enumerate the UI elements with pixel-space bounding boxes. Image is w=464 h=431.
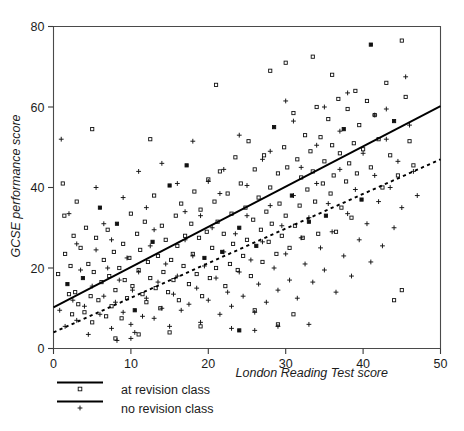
marker-open-square: [234, 156, 237, 159]
marker-open-square: [97, 299, 100, 302]
marker-open-square: [400, 289, 403, 292]
marker-open-square: [106, 228, 109, 231]
marker-open-square: [259, 228, 262, 231]
marker-plus: [159, 161, 164, 166]
marker-open-square: [153, 194, 156, 197]
marker-plus: [225, 290, 230, 295]
x-axis-title: London Reading Test score: [236, 366, 388, 380]
marker-plus: [59, 137, 64, 142]
y-tick-label-80: 80: [31, 20, 45, 34]
marker-open-square: [354, 89, 357, 92]
marker-open-square: [149, 276, 152, 279]
marker-open-square: [226, 192, 229, 195]
marker-plus: [287, 278, 292, 283]
marker-open-square: [185, 164, 188, 167]
marker-open-square: [66, 283, 69, 286]
marker-open-square: [338, 152, 341, 155]
marker-open-square: [146, 260, 149, 263]
marker-open-square: [123, 278, 126, 281]
marker-open-square: [369, 166, 372, 169]
marker-open-square: [303, 134, 306, 137]
legend-label-0: at revision class: [121, 383, 210, 397]
marker-open-square: [72, 234, 75, 237]
x-tick-label-0: 0: [50, 357, 57, 371]
marker-open-square: [276, 172, 279, 175]
marker-plus: [214, 276, 219, 281]
marker-plus: [279, 223, 284, 228]
marker-open-square: [323, 160, 326, 163]
marker-open-square: [57, 272, 60, 275]
marker-plus: [86, 332, 91, 337]
marker-open-square: [143, 220, 146, 223]
y-tick-label-0: 0: [38, 342, 45, 356]
marker-open-square: [350, 216, 353, 219]
marker-open-square: [69, 264, 72, 267]
axis-ticks: 01020304050020406080: [31, 20, 448, 371]
marker-open-square: [105, 315, 108, 318]
marker-open-square: [257, 196, 260, 199]
marker-open-square: [81, 276, 84, 279]
marker-plus: [129, 336, 134, 341]
marker-plus: [361, 151, 366, 156]
marker-plus: [105, 266, 110, 271]
marker-plus: [221, 167, 226, 172]
marker-open-square: [269, 186, 272, 189]
marker-open-square: [135, 232, 138, 235]
marker-open-square: [408, 140, 411, 143]
marker-plus: [283, 99, 288, 104]
marker-open-square: [98, 206, 101, 209]
marker-open-square: [195, 272, 198, 275]
marker-plus: [399, 205, 404, 210]
marker-plus: [403, 74, 408, 79]
marker-open-square: [252, 218, 255, 221]
marker-plus: [314, 143, 319, 148]
marker-plus: [67, 211, 72, 216]
marker-open-square: [269, 69, 272, 72]
marker-plus: [256, 282, 261, 287]
marker-plus: [163, 262, 168, 267]
marker-open-square: [365, 99, 368, 102]
marker-open-square: [247, 140, 250, 143]
marker-plus: [152, 227, 157, 232]
marker-open-square: [160, 224, 163, 227]
marker-plus: [248, 258, 253, 263]
marker-open-square: [412, 164, 415, 167]
marker-plus: [109, 237, 114, 242]
marker-plus: [121, 310, 126, 315]
x-tick-label-20: 20: [201, 357, 215, 371]
marker-plus: [94, 247, 99, 252]
marker-open-square: [151, 240, 154, 243]
y-axis-title: GCSE performance score: [9, 114, 23, 257]
marker-open-square: [75, 200, 78, 203]
marker-open-square: [262, 154, 265, 157]
marker-open-square: [222, 232, 225, 235]
marker-open-square: [118, 266, 121, 269]
marker-open-square: [102, 258, 105, 261]
marker-plus: [194, 286, 199, 291]
marker-open-square: [162, 270, 165, 273]
marker-open-square: [141, 293, 144, 296]
marker-open-square: [174, 214, 177, 217]
marker-plus: [132, 330, 137, 335]
marker-plus: [392, 225, 397, 230]
marker-open-square: [286, 166, 289, 169]
marker-open-square: [265, 210, 268, 213]
marker-open-square: [344, 180, 347, 183]
marker-open-square: [327, 117, 330, 120]
marker-open-square: [183, 234, 186, 237]
marker-open-square: [197, 236, 200, 239]
marker-open-square: [129, 212, 132, 215]
marker-open-square: [182, 264, 185, 267]
marker-plus: [326, 201, 331, 206]
marker-plus: [129, 322, 134, 327]
marker-open-square: [115, 222, 118, 225]
marker-open-square: [283, 146, 286, 149]
marker-open-square: [139, 248, 142, 251]
axis-labels: London Reading Test scoreGCSE performanc…: [9, 114, 388, 380]
marker-plus: [330, 229, 335, 234]
marker-plus: [144, 296, 149, 301]
marker-open-square: [164, 238, 167, 241]
marker-open-square: [270, 222, 273, 225]
marker-plus: [101, 294, 106, 299]
legend-marker-open-square: [78, 387, 82, 391]
